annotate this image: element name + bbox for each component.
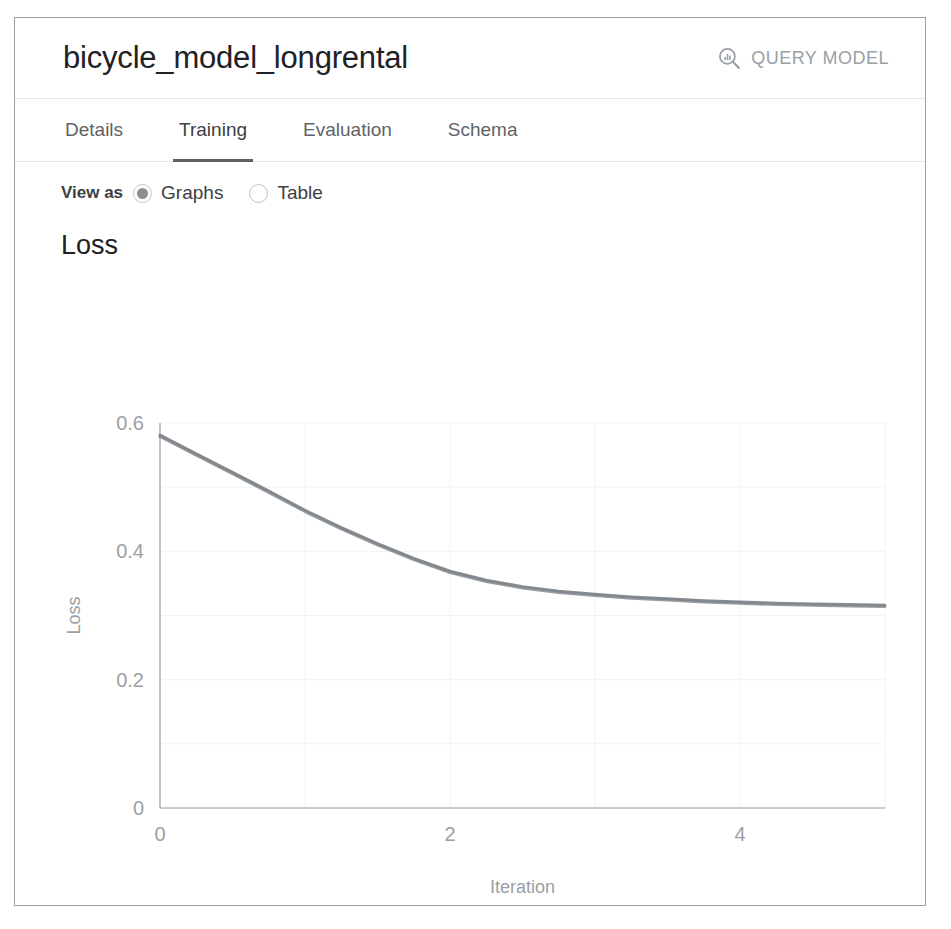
chart-series-lines <box>160 435 885 606</box>
view-as-label: View as <box>61 183 123 203</box>
chart-gridlines <box>160 423 885 808</box>
y-tick-label: 0.4 <box>116 540 144 562</box>
x-tick-label: 4 <box>734 823 745 845</box>
query-model-button[interactable]: QUERY MODEL <box>715 42 891 75</box>
tab-training[interactable]: Training <box>173 99 253 161</box>
series-line-2 <box>160 436 885 606</box>
x-axis-title: Iteration <box>490 877 555 897</box>
chart-section-title: Loss <box>15 204 925 261</box>
page-title: bicycle_model_longrental <box>63 40 408 76</box>
model-detail-card: bicycle_model_longrental QUERY MODEL Det… <box>14 17 926 906</box>
radio-option-table[interactable]: Table <box>249 182 322 204</box>
y-tick-label: 0.2 <box>116 669 144 691</box>
query-model-label: QUERY MODEL <box>751 48 889 69</box>
tab-bar: Details Training Evaluation Schema <box>15 99 925 162</box>
card-header: bicycle_model_longrental QUERY MODEL <box>15 18 925 99</box>
radio-label-table: Table <box>277 182 322 204</box>
tab-schema[interactable]: Schema <box>442 99 524 161</box>
loss-chart: 024 00.20.40.6 Iteration Loss <box>15 358 925 904</box>
x-axis-tick-labels: 024 <box>154 823 745 845</box>
view-as-control: View as Graphs Table <box>15 162 925 204</box>
radio-option-graphs[interactable]: Graphs <box>133 182 223 204</box>
y-tick-label: 0 <box>133 797 144 819</box>
radio-button-table[interactable] <box>249 184 268 203</box>
series-line-1 <box>160 435 885 605</box>
x-tick-label: 0 <box>154 823 165 845</box>
search-chart-icon <box>717 46 742 71</box>
radio-button-graphs[interactable] <box>133 184 152 203</box>
tab-details[interactable]: Details <box>59 99 129 161</box>
x-tick-label: 2 <box>444 823 455 845</box>
y-axis-title: Loss <box>64 596 84 634</box>
radio-label-graphs: Graphs <box>161 182 223 204</box>
y-axis-tick-labels: 00.20.40.6 <box>116 412 144 819</box>
tab-evaluation[interactable]: Evaluation <box>297 99 398 161</box>
y-tick-label: 0.6 <box>116 412 144 434</box>
